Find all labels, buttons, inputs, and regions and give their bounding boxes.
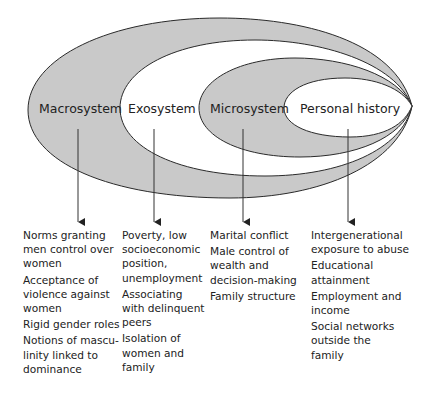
line: family <box>311 348 409 362</box>
line: Associating <box>122 287 205 301</box>
list-item: Employment and income <box>311 289 409 317</box>
list-item: Intergenerational exposure to abuse <box>311 228 409 256</box>
line: women <box>23 256 120 270</box>
label-microsystem: Microsystem <box>210 101 289 116</box>
list-item: Isolation of women and family <box>122 331 205 374</box>
list-item: Acceptance of violence against women <box>23 273 120 316</box>
line: Poverty, low <box>122 228 205 242</box>
line: unemployment <box>122 271 205 285</box>
line: women <box>23 301 120 315</box>
label-personal-history: Personal history <box>300 101 401 116</box>
line: attainment <box>311 273 409 287</box>
line: Marital conflict <box>210 228 297 242</box>
list-item: Educational attainment <box>311 258 409 286</box>
line: Norms granting <box>23 228 120 242</box>
list-item: Norms granting men control over women <box>23 228 120 271</box>
line: Acceptance of <box>23 273 120 287</box>
line: Intergenerational <box>311 228 409 242</box>
line: violence against <box>23 287 120 301</box>
line: socioeconomic <box>122 242 205 256</box>
line: with delinquent <box>122 301 205 315</box>
personal-history-factors-list: Intergenerational exposure to abuse Educ… <box>311 228 409 364</box>
line: position, <box>122 256 205 270</box>
line: peers <box>122 315 205 329</box>
line: Educational <box>311 258 409 272</box>
line: women and <box>122 346 205 360</box>
list-item: Social networks outside the family <box>311 319 409 362</box>
line: Rigid gender roles <box>23 317 120 331</box>
line: outside the <box>311 333 409 347</box>
label-exosystem: Exosystem <box>128 101 196 116</box>
line: Male control of <box>210 244 297 258</box>
list-item: Notions of mascu- linity linked to domin… <box>23 333 120 376</box>
line: men control over <box>23 242 120 256</box>
line: wealth and <box>210 258 297 272</box>
list-item: Male control of wealth and decision-maki… <box>210 244 297 287</box>
line: dominance <box>23 362 120 376</box>
label-macrosystem: Macrosystem <box>39 101 122 116</box>
line: Employment and <box>311 289 409 303</box>
list-item: Poverty, low socioeconomic position, une… <box>122 228 205 285</box>
macrosystem-factors-list: Norms granting men control over women Ac… <box>23 228 120 378</box>
line: exposure to abuse <box>311 242 409 256</box>
line: income <box>311 303 409 317</box>
list-item: Rigid gender roles <box>23 317 120 331</box>
line: Notions of mascu- <box>23 333 120 347</box>
list-item: Marital conflict <box>210 228 297 242</box>
list-item: Family structure <box>210 289 297 303</box>
line: decision-making <box>210 273 297 287</box>
line: linity linked to <box>23 348 120 362</box>
list-item: Associating with delinquent peers <box>122 287 205 330</box>
line: Isolation of <box>122 331 205 345</box>
line: Family structure <box>210 289 297 303</box>
line: family <box>122 360 205 374</box>
exosystem-factors-list: Poverty, low socioeconomic position, une… <box>122 228 205 376</box>
microsystem-factors-list: Marital conflict Male control of wealth … <box>210 228 297 305</box>
line: Social networks <box>311 319 409 333</box>
